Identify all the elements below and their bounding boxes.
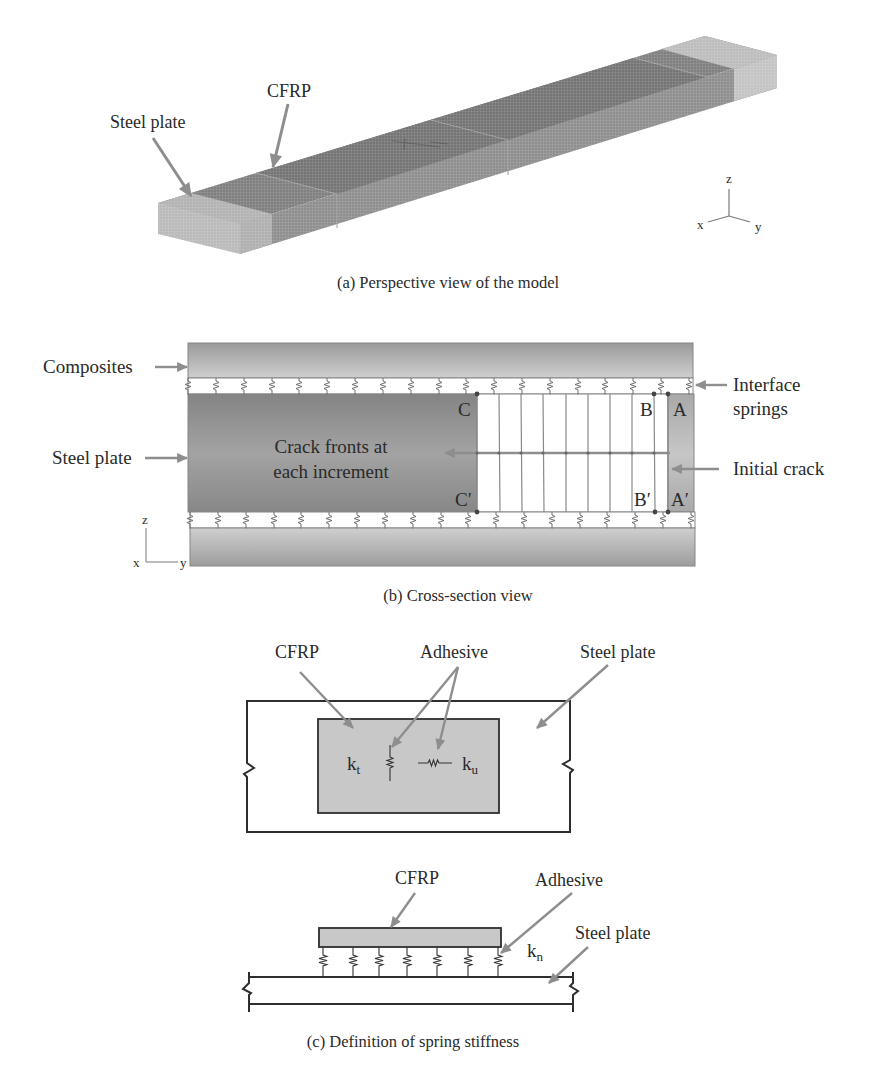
axis-triad-a: z x y: [697, 171, 762, 234]
break-line-left: [243, 972, 251, 1012]
figure-canvas: Steel plate CFRP z x y (a) Perspective v…: [0, 0, 874, 1089]
point-C-prime: C′: [455, 489, 472, 510]
label-crack-fronts-line1: Crack fronts at: [275, 436, 389, 457]
arrow-steel-plate-a: [153, 138, 191, 196]
axis-y-line: [729, 216, 750, 222]
axis-z-label: z: [726, 171, 732, 186]
side-view: kn CFRP Adhesive Steel plate: [243, 868, 650, 1012]
label-steel-plate-plan: Steel plate: [580, 642, 655, 662]
label-interface-springs-line2: springs: [733, 398, 788, 419]
caption-a: (a) Perspective view of the model: [337, 273, 560, 292]
axis-z-label: z: [142, 512, 148, 527]
fe-model-beam: [158, 36, 777, 254]
axis-x-line: [708, 216, 729, 222]
adhesive-springs-kn: [319, 947, 502, 977]
label-interface-springs-line1: Interface: [733, 374, 801, 395]
cfrp-patch-side: [319, 928, 501, 947]
label-cfrp-plan: CFRP: [275, 642, 319, 662]
point-B: B: [640, 399, 653, 420]
label-steel-plate-b: Steel plate: [52, 447, 132, 468]
label-cfrp-a: CFRP: [267, 81, 311, 101]
axis-x-label: x: [697, 217, 704, 232]
axis-y-label: y: [755, 219, 762, 234]
point-B-prime: B′: [634, 489, 651, 510]
label-k-n: kn: [527, 940, 544, 964]
panel-a-perspective-view: Steel plate CFRP z x y (a) Perspective v…: [110, 36, 777, 292]
label-steel-plate-side: Steel plate: [575, 923, 650, 943]
plan-view: kt ku CFRP Adhesive Steel plate: [244, 642, 655, 832]
label-adhesive-plan: Adhesive: [420, 642, 488, 662]
axis-triad-b: z x y: [133, 512, 187, 570]
label-initial-crack: Initial crack: [733, 458, 825, 479]
axis-y-label: y: [180, 555, 187, 570]
mesh-texture: [158, 36, 777, 254]
arrow-cfrp-side: [391, 893, 415, 927]
caption-c: (c) Definition of spring stiffness: [307, 1032, 519, 1051]
label-steel-plate-a: Steel plate: [110, 112, 185, 132]
label-crack-fronts-line2: each increment: [273, 461, 389, 482]
axis-x-label: x: [133, 555, 140, 570]
panel-c-spring-stiffness: kt ku CFRP Adhesive Steel plate kn CFRP: [243, 642, 655, 1051]
point-A: A: [673, 399, 687, 420]
label-adhesive-side: Adhesive: [535, 870, 603, 890]
bottom-composite-layer: [190, 528, 695, 566]
label-cfrp-side: CFRP: [395, 868, 439, 888]
top-composite-layer: [188, 343, 693, 378]
point-C: C: [458, 399, 471, 420]
point-A-prime: A′: [671, 489, 689, 510]
arrow-cfrp-a: [273, 104, 288, 167]
label-composites: Composites: [43, 356, 133, 377]
caption-b: (b) Cross-section view: [383, 586, 532, 605]
arrow-steel-plate-plan: [537, 665, 608, 728]
panel-b-cross-section: C C′ B B′ A A′ Crack fronts at each incr…: [43, 343, 825, 605]
arrow-adhesive-side: [501, 893, 572, 953]
